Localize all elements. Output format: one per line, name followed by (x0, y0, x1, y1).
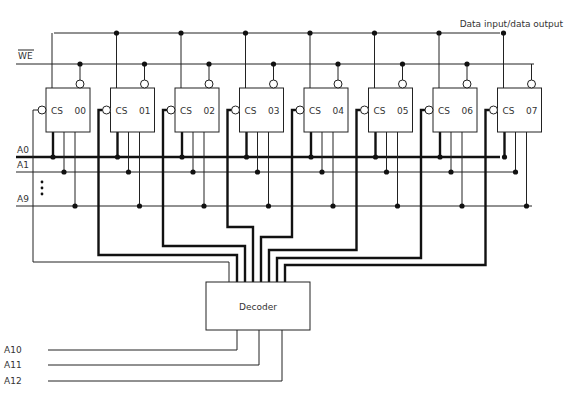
chip-cs-label: CS (116, 106, 128, 116)
junction-dot (384, 169, 389, 174)
cs-inverter-bubble-icon (167, 106, 175, 114)
junction-dot (115, 154, 120, 159)
decoder-input-a10 (48, 330, 237, 350)
junction-dot (190, 169, 195, 174)
chip-cs-label: CS (309, 106, 321, 116)
junction-dot (464, 61, 469, 66)
junction-dot (266, 203, 271, 208)
we-inverter-bubble-icon (76, 80, 84, 88)
we-inverter-bubble-icon (141, 80, 149, 88)
cs-inverter-bubble-icon (103, 106, 111, 114)
junction-dot (126, 169, 131, 174)
junction-dot (255, 169, 260, 174)
chip-cs-label: CS (180, 106, 192, 116)
chip-cs-label: CS (245, 106, 257, 116)
junction-dot (137, 203, 142, 208)
chip-cs-label: CS (374, 106, 386, 116)
junction-dot (330, 203, 335, 208)
we-inverter-bubble-icon (528, 80, 536, 88)
data-bus-label: Data input/data output (460, 19, 564, 29)
address-label-a1: A1 (17, 160, 29, 170)
chip-id-label: 06 (462, 106, 474, 116)
junction-dot (61, 169, 66, 174)
cs-inverter-bubble-icon (232, 106, 240, 114)
junction-dot (459, 203, 464, 208)
junction-dot (513, 169, 518, 174)
junction-dot (72, 203, 77, 208)
junction-dot (372, 30, 377, 35)
chip-id-label: 05 (397, 106, 408, 116)
chip-id-label: 00 (75, 106, 87, 116)
cs-line-04 (261, 110, 296, 282)
chip-id-label: 03 (268, 106, 279, 116)
junction-dot (77, 61, 82, 66)
chip-cs-label: CS (438, 106, 450, 116)
cs-line-07 (285, 110, 490, 282)
junction-dot (50, 154, 55, 159)
cs-line-06 (277, 110, 425, 282)
junction-dot (243, 30, 248, 35)
junction-dot (179, 154, 184, 159)
junction-dot (437, 154, 442, 159)
junction-dot (178, 30, 183, 35)
junction-dot (502, 154, 507, 159)
decoder-input-label-a10: A10 (4, 345, 22, 355)
junction-dot (501, 30, 506, 35)
junction-dot (524, 203, 529, 208)
junction-dot (142, 61, 147, 66)
decoder-input-a11 (48, 330, 259, 365)
chip-id-label: 01 (139, 106, 150, 116)
cs-line-01 (99, 110, 238, 282)
chip-id-label: 02 (204, 106, 215, 116)
junction-dot (448, 169, 453, 174)
ellipsis-dot (41, 181, 44, 184)
chip-id-label: 07 (526, 106, 537, 116)
junction-dot (319, 169, 324, 174)
chips (38, 80, 542, 330)
we-inverter-bubble-icon (270, 80, 278, 88)
junction-dot (373, 154, 378, 159)
junction-dot (244, 154, 249, 159)
junction-dot (436, 30, 441, 35)
we-inverter-bubble-icon (399, 80, 407, 88)
cs-inverter-bubble-icon (296, 106, 304, 114)
junction-dot (307, 30, 312, 35)
we-label: WE (18, 51, 33, 61)
decoder-input-label-a12: A12 (4, 376, 22, 386)
junction-dot (308, 154, 313, 159)
we-inverter-bubble-icon (463, 80, 471, 88)
cs-inverter-bubble-icon (361, 106, 369, 114)
cs-inverter-bubble-icon (425, 106, 433, 114)
ellipsis-dot (41, 187, 44, 190)
decoder-input-a12 (48, 330, 282, 381)
chip-cs-label: CS (503, 106, 515, 116)
cs-inverter-bubble-icon (490, 106, 498, 114)
junction-dot (206, 61, 211, 66)
decoder-label: Decoder (239, 302, 277, 312)
decoder-input-label-a11: A11 (4, 360, 22, 370)
cs-line-05 (269, 110, 361, 282)
junction-dot (400, 61, 405, 66)
cs-inverter-bubble-icon (38, 106, 46, 114)
address-label-a0: A0 (17, 145, 29, 155)
junction-dot (335, 61, 340, 66)
address-label-a9: A9 (17, 194, 29, 204)
memory-decoder-diagram: Data input/data outputWEA0A1A9DecoderA10… (0, 0, 568, 400)
junction-dot (114, 30, 119, 35)
junction-dot (271, 61, 276, 66)
junction-dot (395, 203, 400, 208)
chip-cs-label: CS (51, 106, 63, 116)
we-inverter-bubble-icon (334, 80, 342, 88)
chip-id-label: 04 (333, 106, 345, 116)
labels: Data input/data outputWEA0A1A9DecoderA10… (4, 19, 563, 386)
junction-dot (201, 203, 206, 208)
ellipsis-dot (41, 193, 44, 196)
we-inverter-bubble-icon (205, 80, 213, 88)
